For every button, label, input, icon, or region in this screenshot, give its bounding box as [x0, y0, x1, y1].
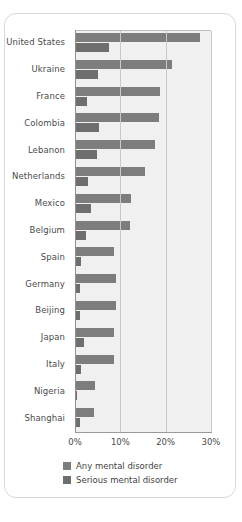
bar-serious [75, 70, 98, 79]
y-axis-tick-label: Ukraine [3, 64, 65, 74]
bar-group [75, 192, 211, 219]
bar-serious [75, 97, 87, 106]
bar-group [75, 58, 211, 85]
bar-any [75, 381, 95, 390]
legend-label: Serious mental disorder [76, 475, 178, 485]
bar-group [75, 138, 211, 165]
gridline-10 [120, 31, 121, 432]
y-axis-tick-label: Shanghai [3, 413, 65, 423]
bar-any [75, 113, 159, 122]
bar-any [75, 355, 114, 364]
y-axis-tick-label: Beijing [3, 305, 65, 315]
chart-card: United StatesUkraineFranceColombiaLebano… [4, 13, 236, 498]
y-axis-tick-label: Netherlands [3, 171, 65, 181]
legend-item[interactable]: Any mental disorder [5, 461, 237, 471]
y-axis-tick-label: Colombia [3, 118, 65, 128]
bar-serious [75, 231, 86, 240]
gridline-20 [166, 31, 167, 432]
bar-serious [75, 204, 91, 213]
bar-group [75, 111, 211, 138]
legend-swatch-icon [63, 462, 71, 470]
y-axis-tick-label: Japan [3, 332, 65, 342]
bar-any [75, 140, 155, 149]
plot-area [75, 30, 211, 432]
bar-serious [75, 150, 97, 159]
bar-group [75, 353, 211, 380]
bar-serious [75, 338, 84, 347]
y-axis-line [75, 30, 76, 433]
y-axis-labels: United StatesUkraineFranceColombiaLebano… [5, 30, 71, 432]
bar-any [75, 167, 145, 176]
gridline-30 [211, 31, 212, 432]
bar-group [75, 31, 211, 58]
chart-legend: Any mental disorderSerious mental disord… [5, 461, 237, 489]
bar-group [75, 299, 211, 326]
bar-any [75, 60, 172, 69]
bar-any [75, 274, 116, 283]
legend-label: Any mental disorder [76, 461, 162, 471]
y-axis-tick-label: Lebanon [3, 145, 65, 155]
legend-swatch-icon [63, 476, 71, 484]
y-axis-tick-label: France [3, 91, 65, 101]
y-axis-tick-label: Spain [3, 252, 65, 262]
bar-serious [75, 177, 88, 186]
bar-group [75, 326, 211, 353]
bar-any [75, 328, 114, 337]
bar-group [75, 406, 211, 433]
y-axis-tick-label: Italy [3, 359, 65, 369]
y-axis-tick-label: Belgium [3, 225, 65, 235]
x-axis-labels: 0%10%20%30% [5, 437, 237, 451]
bar-any [75, 247, 114, 256]
y-axis-tick-label: Mexico [3, 198, 65, 208]
bar-rows [75, 31, 211, 432]
x-axis-tick-label: 30% [202, 437, 221, 447]
bar-group [75, 219, 211, 246]
y-axis-tick-label: Germany [3, 279, 65, 289]
bar-group [75, 272, 211, 299]
bar-any [75, 33, 200, 42]
y-axis-tick-label: United States [3, 37, 65, 47]
bar-any [75, 194, 131, 203]
x-axis-tick-label: 10% [111, 437, 130, 447]
bar-serious [75, 123, 99, 132]
bar-any [75, 301, 116, 310]
bar-any [75, 87, 160, 96]
x-axis-line [75, 432, 212, 433]
bar-any [75, 408, 94, 417]
bar-group [75, 379, 211, 406]
x-axis-tick-label: 20% [156, 437, 175, 447]
bar-chart: United StatesUkraineFranceColombiaLebano… [5, 14, 237, 499]
bar-group [75, 165, 211, 192]
bar-any [75, 221, 130, 230]
bar-group [75, 245, 211, 272]
y-axis-tick-label: Nigeria [3, 386, 65, 396]
bar-serious [75, 43, 109, 52]
bar-group [75, 85, 211, 112]
legend-item[interactable]: Serious mental disorder [5, 475, 237, 485]
x-axis-tick-label: 0% [68, 437, 82, 447]
